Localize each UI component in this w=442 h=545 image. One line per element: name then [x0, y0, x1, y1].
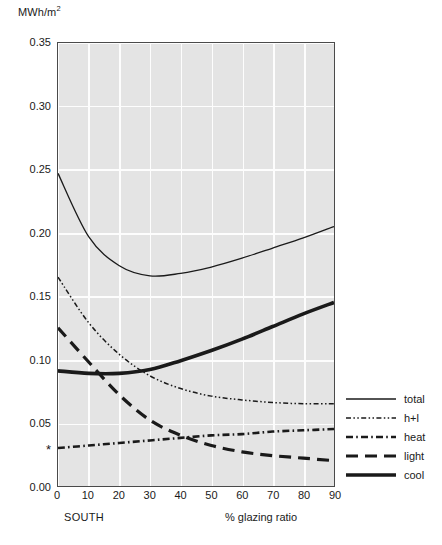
- series-line-light: [58, 328, 334, 461]
- x-tick-label: 40: [174, 489, 186, 501]
- legend-swatch-icon: [345, 411, 397, 425]
- legend-item-light[interactable]: light: [345, 446, 440, 465]
- y-tick-label: 0.10: [5, 354, 51, 366]
- legend-item-total[interactable]: total: [345, 389, 440, 408]
- y-axis-title: MWh/m2: [18, 6, 61, 18]
- series-line-total: [58, 173, 334, 276]
- legend-item-h-l[interactable]: h+l: [345, 408, 440, 427]
- series-line-h-l: [58, 277, 334, 404]
- x-tick-label: 30: [144, 489, 156, 501]
- series-line-heat: [58, 429, 334, 448]
- x-tick-label: 10: [82, 489, 94, 501]
- y-tick-label: 0.25: [5, 163, 51, 175]
- x-tick-label: 60: [236, 489, 248, 501]
- legend-label: heat: [397, 431, 425, 443]
- y-tick-label: 0.20: [5, 227, 51, 239]
- y-axis-title-exponent: 2: [56, 4, 60, 13]
- y-axis-star-marker: *: [5, 443, 51, 456]
- x-tick-label: 90: [329, 489, 341, 501]
- legend-item-heat[interactable]: heat: [345, 427, 440, 446]
- x-axis-ticks: 0102030405060708090: [57, 489, 335, 507]
- y-tick-label: 0.35: [5, 36, 51, 48]
- legend-label: total: [397, 393, 425, 405]
- y-tick-label: 0.15: [5, 290, 51, 302]
- legend-item-cool[interactable]: cool: [345, 465, 440, 484]
- x-tick-label: 20: [113, 489, 125, 501]
- y-tick-label: 0.05: [5, 417, 51, 429]
- x-tick-label: 0: [54, 489, 60, 501]
- orientation-label: SOUTH: [64, 511, 104, 523]
- legend: totalh+lheatlightcool: [345, 389, 440, 484]
- y-tick-label: 0.00: [5, 481, 51, 493]
- x-tick-label: 80: [298, 489, 310, 501]
- y-axis-title-text: MWh/m: [18, 6, 56, 18]
- legend-swatch-icon: [345, 392, 397, 406]
- x-tick-label: 70: [267, 489, 279, 501]
- legend-label: cool: [397, 469, 424, 481]
- y-axis-ticks: 0.000.050.100.150.200.250.300.35*: [0, 42, 51, 487]
- x-tick-label: 50: [205, 489, 217, 501]
- x-axis-title: % glazing ratio: [225, 511, 297, 523]
- legend-label: light: [397, 450, 424, 462]
- plot-area: [57, 42, 335, 487]
- legend-swatch-icon: [345, 449, 397, 463]
- energy-glazing-chart: MWh/m2 0.000.050.100.150.200.250.300.35*…: [0, 0, 442, 545]
- legend-swatch-icon: [345, 468, 397, 482]
- y-tick-label: 0.30: [5, 100, 51, 112]
- series-line-cool: [58, 302, 334, 373]
- series-lines: [58, 43, 334, 486]
- legend-swatch-icon: [345, 430, 397, 444]
- legend-label: h+l: [397, 412, 419, 424]
